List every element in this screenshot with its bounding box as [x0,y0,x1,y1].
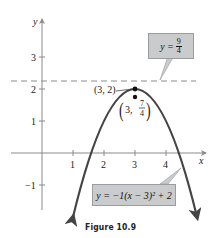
tick-label-x2: 2 [101,159,106,170]
svg-text:4: 4 [140,109,144,118]
equation-label-text: y = −1(x − 3)² + 2 [96,190,172,201]
svg-text:): ) [146,100,151,122]
svg-text:7: 7 [140,99,144,108]
directrix-callout-pointer [160,56,174,80]
tick-label-x1: 1 [70,159,75,170]
equation-callout-pointer [160,168,181,184]
svg-text:3,: 3, [125,104,133,115]
vertex-point [133,87,138,92]
directrix-label-box: y = 9 4 [148,33,194,59]
tick-label-y3: 3 [31,52,36,63]
figure-caption: Figure 10.9 [85,222,136,232]
svg-text:(: ( [119,100,124,122]
equation-label-box: y = −1(x − 3)² + 2 [92,184,176,206]
vertex-label: (3, 2) [94,84,116,96]
tick-label-x4: 4 [163,159,168,170]
x-axis-label: x [198,155,204,166]
y-axis-label: y [32,16,38,27]
tick-label-yneg1: −1 [25,180,36,191]
tick-label-y2: 2 [31,84,36,95]
focus-point [133,95,137,99]
directrix-label-text: y = [160,41,174,52]
tick-label-y1: 1 [31,116,36,127]
focus-label: ( 3, 7 4 ) [119,99,151,122]
tick-label-x3: 3 [132,159,137,170]
directrix-fraction: 9 4 [176,38,182,55]
